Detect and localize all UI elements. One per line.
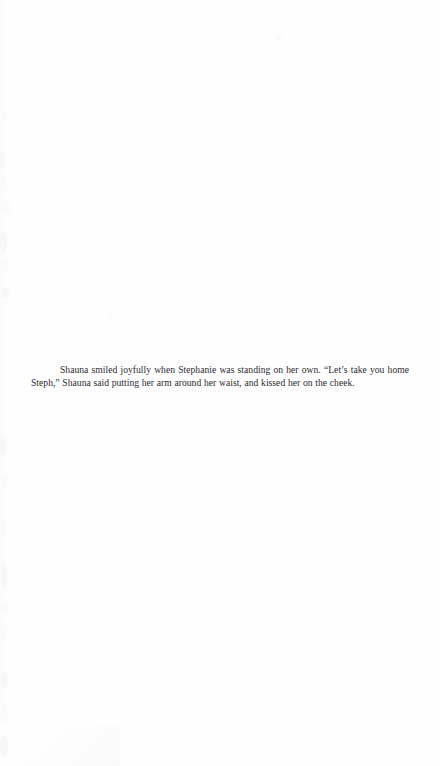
scan-speck	[3, 604, 8, 613]
scan-speck	[2, 476, 7, 486]
scanned-page: Shauna smiled joyfully when Stephanie wa…	[0, 0, 440, 766]
scan-speck	[2, 706, 7, 717]
scan-speck	[277, 36, 282, 40]
scan-speck	[0, 628, 6, 640]
scan-speck	[3, 206, 11, 211]
scan-speck	[1, 672, 8, 688]
scan-speck	[1, 288, 9, 298]
scan-speck	[2, 112, 7, 121]
scan-speck	[0, 438, 6, 456]
bottom-left-scan-shadow	[0, 726, 120, 766]
scan-speck	[0, 152, 6, 168]
scan-speck	[1, 176, 6, 188]
page-text-block: Shauna smiled joyfully when Stephanie wa…	[31, 363, 409, 389]
scan-speck	[108, 315, 114, 319]
scan-speck	[0, 520, 7, 535]
left-edge-scan-shadow	[0, 0, 14, 766]
scan-speck	[0, 232, 7, 252]
body-paragraph: Shauna smiled joyfully when Stephanie wa…	[31, 363, 409, 389]
scan-speck	[0, 736, 8, 756]
scan-speck	[2, 258, 8, 272]
scan-speck	[1, 566, 7, 588]
